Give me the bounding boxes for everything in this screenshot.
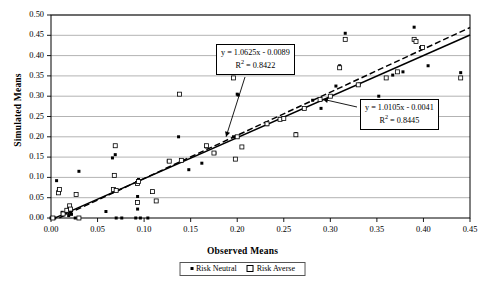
- y-tick-label: 0.00: [14, 213, 44, 222]
- data-point-filled: [377, 95, 380, 98]
- data-point-filled: [114, 153, 117, 156]
- x-tick-label: 0.15: [171, 225, 211, 234]
- data-point-open: [235, 135, 239, 139]
- data-point-open: [240, 145, 244, 149]
- data-point-open: [233, 157, 237, 161]
- data-point-filled: [77, 170, 80, 173]
- solid-r2: R2 = 0.8445: [365, 113, 434, 126]
- legend-item-risk-neutral: Risk Neutral: [190, 264, 237, 273]
- data-point-open: [204, 144, 208, 148]
- y-tick-label: 0.45: [14, 30, 44, 39]
- data-point-open: [167, 159, 171, 163]
- x-tick-label: 0.05: [78, 225, 118, 234]
- data-point-open: [231, 76, 235, 80]
- data-point-open: [459, 76, 463, 80]
- data-point-open: [179, 158, 183, 162]
- x-tick-label: 0.30: [310, 225, 350, 234]
- data-point-open: [112, 173, 116, 177]
- solid-equation-callout: y = 1.0105x - 0.0041 R2 = 0.8445: [360, 99, 439, 130]
- y-tick-label: 0.35: [14, 71, 44, 80]
- data-point-filled: [413, 26, 416, 29]
- dashed-callout-arrow: [226, 77, 245, 137]
- scatter-chart: Simulated Means Observed Means 0.000.050…: [0, 0, 485, 288]
- dashed-r2: R2 = 0.8422: [221, 58, 290, 71]
- y-tick-label: 0.15: [14, 152, 44, 161]
- data-point-filled: [74, 217, 77, 220]
- data-point-open: [356, 83, 360, 87]
- data-point-filled: [136, 208, 139, 211]
- y-tick-label: 0.30: [14, 91, 44, 100]
- open-square-icon: [247, 265, 254, 272]
- data-point-open: [343, 37, 347, 41]
- solid-r2-value: = 0.8445: [390, 116, 419, 125]
- data-point-filled: [104, 210, 107, 213]
- data-point-filled: [344, 32, 347, 35]
- data-point-filled: [200, 162, 203, 165]
- x-tick-label: 0.40: [403, 225, 443, 234]
- data-point-open: [282, 117, 286, 121]
- data-point-open: [114, 188, 118, 192]
- data-point-open: [177, 92, 181, 96]
- legend-label-risk-neutral: Risk Neutral: [196, 264, 237, 273]
- data-point-filled: [320, 107, 323, 110]
- data-point-open: [212, 151, 216, 155]
- solid-callout-arrow-head: [323, 98, 328, 103]
- data-point-filled: [115, 217, 118, 220]
- data-point-filled: [139, 217, 142, 220]
- x-tick-label: 0.20: [217, 225, 257, 234]
- dashed-equation-callout: y = 1.0625x - 0.0089 R2 = 0.8422: [216, 44, 295, 75]
- x-tick-marks: [51, 218, 470, 222]
- filled-square-icon: [190, 267, 193, 270]
- legend-item-risk-averse: Risk Averse: [247, 264, 295, 273]
- data-point-filled: [232, 135, 235, 138]
- data-point-open: [384, 76, 388, 80]
- data-point-open: [113, 144, 117, 148]
- data-point-open: [414, 39, 418, 43]
- x-tick-label: 0.00: [31, 225, 71, 234]
- data-point-open: [395, 70, 399, 74]
- data-point-open: [294, 133, 298, 137]
- x-axis-title: Observed Means: [0, 246, 485, 256]
- data-point-open: [137, 179, 141, 183]
- data-point-open: [338, 66, 342, 70]
- x-tick-label: 0.35: [357, 225, 397, 234]
- data-point-open: [302, 106, 306, 110]
- data-point-filled: [55, 179, 58, 182]
- data-point-open: [150, 190, 154, 194]
- data-point-filled: [111, 156, 114, 159]
- data-point-filled: [177, 135, 180, 138]
- data-point-filled: [391, 74, 394, 77]
- y-tick-marks: [47, 15, 51, 218]
- y-tick-label: 0.50: [14, 10, 44, 19]
- data-point-open: [74, 192, 78, 196]
- dashed-r2-exponent: 2: [241, 58, 244, 65]
- data-point-filled: [427, 64, 430, 67]
- data-point-open: [328, 94, 332, 98]
- chart-legend: Risk Neutral Risk Averse: [179, 262, 306, 276]
- data-point-filled: [401, 70, 404, 73]
- solid-equation-text: y = 1.0105x - 0.0041: [365, 103, 434, 112]
- data-point-filled: [146, 217, 149, 220]
- y-tick-label: 0.05: [14, 193, 44, 202]
- y-tick-label: 0.10: [14, 172, 44, 181]
- x-tick-label: 0.25: [264, 225, 304, 234]
- data-point-open: [265, 122, 269, 126]
- data-point-filled: [67, 214, 70, 217]
- dashed-callout-arrow-head: [225, 131, 230, 137]
- data-point-open: [421, 45, 425, 49]
- data-point-open: [318, 97, 322, 101]
- solid-callout-arrow: [323, 99, 357, 107]
- x-tick-label: 0.45: [450, 225, 485, 234]
- data-point-open: [51, 216, 55, 220]
- data-point-open: [136, 201, 140, 205]
- y-tick-label: 0.40: [14, 51, 44, 60]
- dashed-r2-value: = 0.8422: [246, 61, 275, 70]
- data-point-open: [69, 207, 73, 211]
- data-point-filled: [459, 71, 462, 74]
- x-tick-label: 0.10: [124, 225, 164, 234]
- dashed-equation-text: y = 1.0625x - 0.0089: [221, 48, 290, 57]
- y-tick-label: 0.20: [14, 132, 44, 141]
- data-point-open: [154, 199, 158, 203]
- legend-label-risk-averse: Risk Averse: [257, 264, 295, 273]
- y-tick-label: 0.25: [14, 112, 44, 121]
